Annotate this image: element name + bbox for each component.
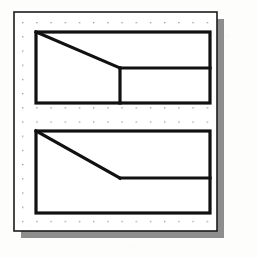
upper-shape <box>36 32 210 103</box>
lower-shape <box>36 131 210 213</box>
lower-shape-outline <box>36 131 210 213</box>
figure-canvas <box>0 0 258 258</box>
figure-container <box>0 0 258 258</box>
